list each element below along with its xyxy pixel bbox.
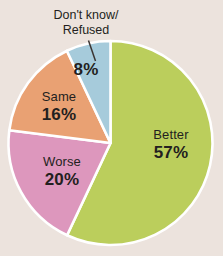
slice-name-same: Same	[24, 90, 94, 105]
slice-label-dont-know-line2: Refused	[31, 23, 141, 38]
slice-value-better: 57%	[134, 143, 208, 162]
slice-label-dont-know-refused: Don't know/ Refused	[31, 8, 141, 38]
slice-label-dont-know-line1: Don't know/	[31, 8, 141, 23]
slice-name-worse: Worse	[26, 155, 98, 170]
slice-label-better: Better 57%	[134, 128, 208, 162]
slice-label-same: Same 16%	[24, 90, 94, 124]
slice-value-dont-know-refused: 8%	[58, 60, 114, 79]
slice-value-worse: 20%	[26, 170, 98, 189]
slice-label-worse: Worse 20%	[26, 155, 98, 189]
slice-value-same: 16%	[24, 105, 94, 124]
slice-name-better: Better	[134, 128, 208, 143]
pie-chart: Don't know/ Refused 8% Same 16% Worse 20…	[0, 0, 223, 256]
